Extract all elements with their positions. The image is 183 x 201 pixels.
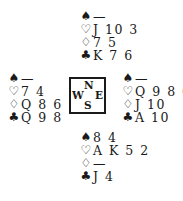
- west-clubs-cards: Q 9 8: [20, 111, 63, 124]
- compass-south-label: S: [84, 100, 92, 111]
- compass-east-label: E: [95, 90, 103, 101]
- north-clubs-cards: K 7 6: [92, 49, 134, 62]
- east-hand: ♠ — ♡ Q 9 8 6 ♢ J 10 ♣ A 10: [122, 72, 183, 124]
- south-hand: ♠ 8 4 ♡ A K 5 2 ♢ — ♣ J 4: [80, 131, 150, 183]
- club-icon: ♣: [122, 111, 134, 124]
- west-clubs-row: ♣ Q 9 8: [8, 111, 63, 124]
- compass-box: N W E S: [69, 77, 106, 114]
- south-clubs-row: ♣ J 4: [80, 170, 150, 183]
- east-clubs-row: ♣ A 10: [122, 111, 183, 124]
- club-icon: ♣: [80, 49, 92, 62]
- north-hand: ♠ — ♡ J 10 3 ♢ 7 5 ♣ K 7 6: [80, 10, 139, 62]
- east-clubs-cards: A 10: [134, 111, 170, 124]
- compass-west-label: W: [72, 90, 84, 101]
- club-icon: ♣: [8, 111, 20, 124]
- compass-north-label: N: [84, 80, 94, 91]
- north-clubs-row: ♣ K 7 6: [80, 49, 139, 62]
- club-icon: ♣: [80, 170, 92, 183]
- south-clubs-cards: J 4: [92, 170, 114, 183]
- west-hand: ♠ — ♡ 7 4 ♢ Q 8 6 ♣ Q 9 8: [8, 72, 63, 124]
